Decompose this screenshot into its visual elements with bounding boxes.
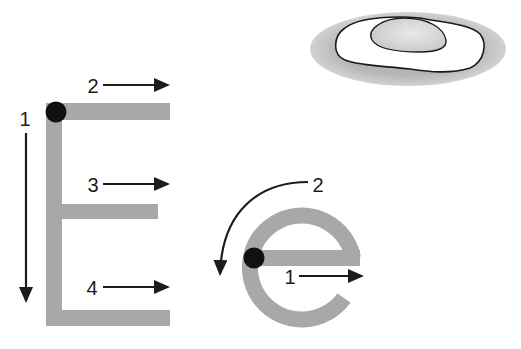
e-ring-stroke bbox=[250, 216, 353, 320]
step-number-label: 1 bbox=[19, 109, 30, 129]
lowercase-e-guide bbox=[0, 0, 521, 349]
e-bar-stroke bbox=[250, 250, 360, 266]
step-number-label: 2 bbox=[87, 76, 98, 96]
step-number-label: 2 bbox=[312, 175, 323, 195]
step-number-label: 4 bbox=[86, 278, 97, 298]
letter-tracing-worksheet: 1 2 3 4 1 2 bbox=[0, 0, 521, 349]
start-dot bbox=[244, 248, 265, 269]
step-number-label: 3 bbox=[87, 175, 98, 195]
step-number-label: 1 bbox=[284, 267, 295, 287]
